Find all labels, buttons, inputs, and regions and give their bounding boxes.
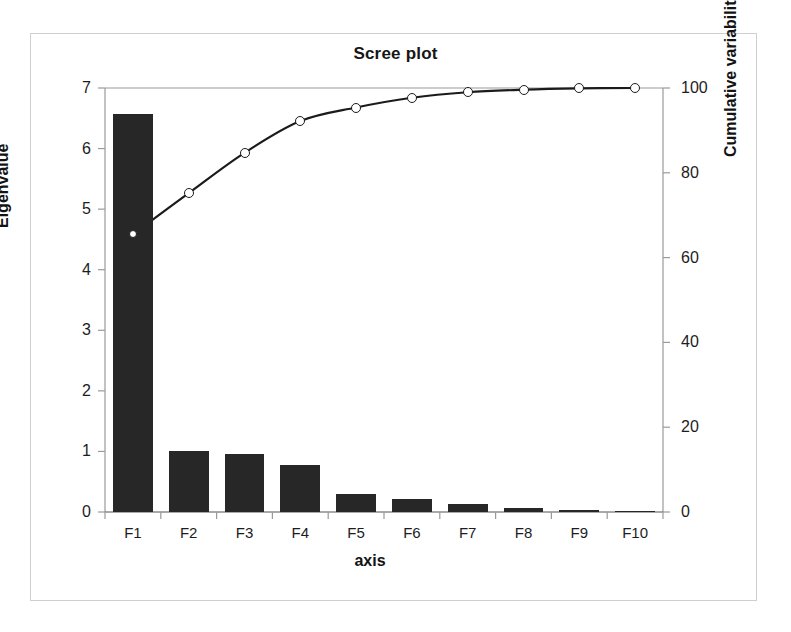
line-marker [184, 188, 194, 198]
line-marker [463, 87, 473, 97]
y-axis-tick-label-left: 0 [61, 503, 91, 521]
bar [169, 451, 209, 512]
line-marker [351, 103, 361, 113]
bar [504, 508, 544, 512]
y-axis-tick-label-right: 0 [681, 503, 690, 521]
y-axis-label-right: Cumulative variability (%) [722, 0, 740, 157]
scree-plot-figure: Scree plot Eigenvalue Cumulative variabi… [0, 0, 791, 632]
y-axis-tick-label-right: 20 [681, 418, 699, 436]
bar [392, 499, 432, 512]
bar [280, 465, 320, 512]
x-axis-tick-label: F4 [292, 524, 310, 541]
y-axis-tick-label-left: 7 [61, 79, 91, 97]
y-axis-tick-label-right: 80 [681, 164, 699, 182]
x-axis-tick-label: F3 [236, 524, 254, 541]
bar [448, 504, 488, 512]
bar [113, 114, 153, 512]
line-marker [407, 93, 417, 103]
x-axis-tick-label: F5 [347, 524, 365, 541]
y-axis-tick-label-right: 40 [681, 333, 699, 351]
y-axis-tick-label-left: 4 [61, 261, 91, 279]
x-axis-tick-label: F8 [515, 524, 533, 541]
x-axis-label: axis [0, 552, 740, 570]
bar [225, 454, 265, 512]
bar [336, 494, 376, 512]
y-axis-label-left: Eigenvalue [0, 144, 12, 228]
x-axis-tick-label: F9 [571, 524, 589, 541]
x-axis-tick-label: F2 [180, 524, 198, 541]
line-marker [295, 116, 305, 126]
y-axis-tick-label-left: 5 [61, 200, 91, 218]
line-marker [630, 83, 640, 93]
y-axis-tick-label-left: 2 [61, 382, 91, 400]
bar [615, 511, 655, 513]
x-axis-tick-label: F7 [459, 524, 477, 541]
line-marker [574, 83, 584, 93]
y-axis-tick-label-right: 60 [681, 249, 699, 267]
line-marker [519, 85, 529, 95]
x-axis-tick-label: F10 [622, 524, 648, 541]
x-axis-tick-label: F1 [124, 524, 142, 541]
chart-title: Scree plot [0, 44, 791, 64]
line-marker [129, 230, 137, 238]
y-axis-tick-label-left: 6 [61, 140, 91, 158]
y-axis-tick-label-right: 100 [681, 79, 708, 97]
line-marker [240, 148, 250, 158]
y-axis-tick-label-left: 1 [61, 442, 91, 460]
bar [559, 510, 599, 512]
y-axis-tick-label-left: 3 [61, 321, 91, 339]
x-axis-tick-label: F6 [403, 524, 421, 541]
